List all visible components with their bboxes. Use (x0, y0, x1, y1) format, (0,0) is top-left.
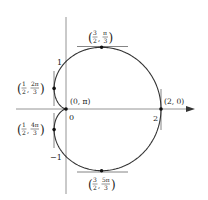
label-upper-left: ( 1 2 , 2π 3 ) (17, 80, 45, 96)
point-right (159, 107, 163, 111)
label-top: ( 3 2 , π 3 ) (88, 29, 113, 45)
svg-text:(: ( (17, 82, 22, 96)
point-upper-left (52, 87, 56, 91)
svg-text:,: , (27, 86, 29, 94)
label-ll-r-num: 1 (22, 121, 26, 128)
tick-label-y-neg1: −1 (50, 153, 62, 162)
label-top-r-den: 2 (93, 37, 97, 44)
label-bottom-r-den: 2 (93, 184, 97, 191)
label-ll-theta-den: 3 (33, 129, 37, 136)
svg-text:,: , (98, 35, 100, 43)
svg-text:): ) (111, 178, 116, 192)
label-top-theta-den: 3 (104, 37, 108, 44)
svg-text:,: , (98, 182, 100, 190)
label-ul-r-num: 1 (22, 80, 26, 87)
svg-text:): ) (40, 123, 45, 137)
label-top-theta-num: π (103, 29, 107, 36)
cardioid-diagram: 1 −1 0 2 (0, π) (2, 0) ( 3 2 , π 3 ) ( 1… (0, 0, 208, 200)
label-ll-r-den: 2 (22, 129, 26, 136)
tick-label-x-2: 2 (153, 114, 158, 123)
label-ul-r-den: 2 (22, 88, 26, 95)
label-right: (2, 0) (164, 97, 184, 106)
point-pole (64, 107, 68, 111)
label-ul-theta-den: 3 (33, 88, 37, 95)
label-bottom-theta-den: 3 (104, 184, 108, 191)
tick-label-y-1: 1 (57, 58, 62, 67)
point-top (100, 46, 104, 50)
point-bottom (100, 169, 104, 173)
label-top-r-num: 3 (93, 29, 97, 36)
x-axis-arrow-icon (186, 106, 195, 112)
svg-text:): ) (40, 82, 45, 96)
label-pole: (0, π) (70, 97, 90, 106)
label-ul-theta-num: 2π (31, 80, 39, 87)
svg-text:(: ( (88, 31, 93, 45)
tick-label-x-0: 0 (69, 113, 74, 122)
point-lower-left (52, 128, 56, 132)
svg-text:(: ( (88, 178, 93, 192)
svg-text:,: , (27, 127, 29, 135)
svg-text:(: ( (17, 123, 22, 137)
svg-text:): ) (109, 31, 114, 45)
label-bottom: ( 3 2 , 5π 3 ) (88, 176, 116, 192)
label-bottom-theta-num: 5π (102, 176, 110, 183)
label-lower-left: ( 1 2 , 4π 3 ) (17, 121, 45, 137)
label-ll-theta-num: 4π (31, 121, 39, 128)
label-bottom-r-num: 3 (93, 176, 97, 183)
